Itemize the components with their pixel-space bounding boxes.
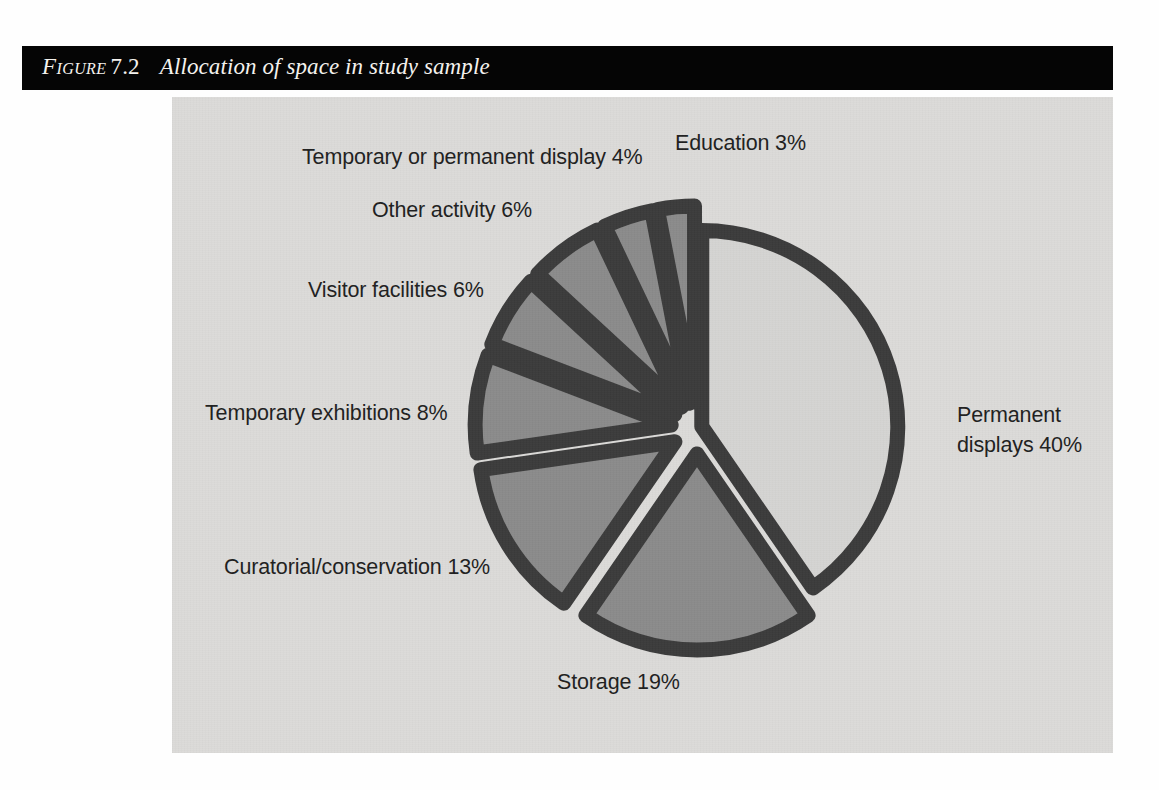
chart-panel: Education 3% Temporary or permanent disp…	[172, 97, 1113, 753]
figure-number: 7.2	[110, 54, 139, 79]
slice-label-visitor-facilities: Visitor facilities 6%	[308, 275, 484, 305]
slice-label-permanent-displays-line1: Permanent	[957, 403, 1061, 427]
slice-label-permanent-displays: Permanent displays 40%	[957, 400, 1107, 460]
slice-label-other-activity: Other activity 6%	[372, 195, 532, 225]
slice-label-temporary-exhibitions: Temporary exhibitions 8%	[205, 398, 448, 428]
figure-word: Figure	[42, 54, 106, 79]
slice-label-permanent-displays-line2: displays 40%	[957, 433, 1082, 457]
scanned-page: Figure 7.2 Allocation of space in study …	[0, 0, 1159, 790]
pie-slice-group	[475, 206, 898, 650]
slice-label-curatorial-conservation: Curatorial/conservation 13%	[224, 552, 490, 582]
figure-caption-bar: Figure 7.2 Allocation of space in study …	[22, 46, 1113, 90]
slice-label-education: Education 3%	[675, 128, 806, 158]
slice-label-temporary-or-permanent-display: Temporary or permanent display 4%	[302, 142, 642, 172]
figure-caption: Figure 7.2 Allocation of space in study …	[42, 54, 490, 80]
figure-title: Allocation of space in study sample	[160, 54, 490, 79]
slice-label-storage: Storage 19%	[557, 667, 680, 697]
